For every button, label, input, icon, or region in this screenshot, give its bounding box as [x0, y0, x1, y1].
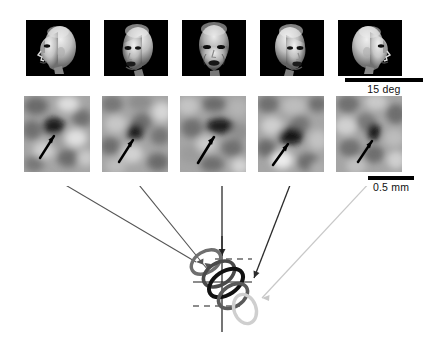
- face-stimulus-panel-3: [182, 20, 246, 76]
- scalebar-visual-angle-bar: [345, 78, 423, 82]
- leader-line-1: [57, 186, 204, 265]
- imaging-map-panel-2: [102, 96, 168, 172]
- face-stimulus-panel-4: [260, 20, 324, 76]
- face-image-frontal: [182, 20, 246, 76]
- scalebar-visual-angle: 15 deg: [345, 78, 423, 96]
- figure-root: 15 deg: [0, 0, 437, 343]
- imaging-map-panel-3: [180, 96, 246, 172]
- face-stimulus-panel-2: [104, 20, 168, 76]
- imaging-map-image-3: [180, 96, 246, 172]
- face-image-left-profile: [26, 20, 90, 76]
- imaging-map-image-2: [102, 96, 168, 172]
- face-image-three-quarter-left: [104, 20, 168, 76]
- leader-line-5: [262, 186, 372, 301]
- scalebar-visual-angle-label: 15 deg: [345, 83, 423, 96]
- imaging-map-image-5: [336, 96, 402, 172]
- imaging-map-panel-5: [336, 96, 402, 172]
- face-image-right-profile: [338, 20, 402, 76]
- domain-overlap-schematic: [0, 186, 437, 343]
- imaging-map-panel-1: [24, 96, 90, 172]
- face-stimulus-panel-5: [338, 20, 402, 76]
- imaging-map-image-4: [258, 96, 324, 172]
- imaging-map-panel-4: [258, 96, 324, 172]
- leader-line-2: [135, 186, 211, 270]
- face-image-three-quarter-right: [260, 20, 324, 76]
- leader-line-4: [254, 186, 293, 278]
- face-stimulus-panel-1: [26, 20, 90, 76]
- scalebar-cortical-distance-bar: [368, 176, 414, 180]
- imaging-map-image-1: [24, 96, 90, 172]
